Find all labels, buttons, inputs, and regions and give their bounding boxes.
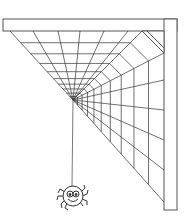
spider-leg: [82, 199, 87, 205]
spider: [57, 185, 88, 210]
web-radial: [33, 31, 73, 100]
web-radial: [73, 53, 164, 100]
illustration-canvas: [0, 0, 188, 222]
spider-pupil-left: [69, 194, 71, 196]
web-radial: [73, 100, 164, 202]
web-radial: [73, 100, 164, 140]
cobweb: [10, 31, 164, 202]
corner-frame: [3, 19, 177, 210]
spider-thread: [72, 100, 73, 186]
spider-pupil-right: [75, 194, 77, 196]
frame-top-bar: [3, 19, 177, 31]
web-radial: [58, 31, 73, 100]
spider-body: [63, 186, 83, 206]
web-radial: [73, 100, 164, 110]
web-radial: [73, 31, 142, 100]
web-radial: [10, 31, 73, 100]
frame-right-bar: [164, 19, 177, 210]
web-radial: [73, 100, 164, 170]
web-radial: [73, 31, 80, 100]
web-radial: [73, 31, 104, 100]
spider-web-illustration: [0, 0, 188, 222]
frame-corner-brace: [142, 31, 164, 53]
